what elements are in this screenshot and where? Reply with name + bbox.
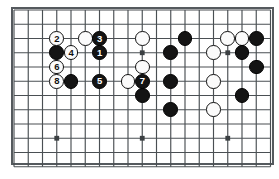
stone-black[interactable] <box>178 31 193 46</box>
stone-move-number: 2 <box>54 33 59 43</box>
stone-move-number: 5 <box>97 76 102 86</box>
stone-move-number: 3 <box>97 33 102 43</box>
stone-black-move-7[interactable]: 7 <box>135 74 150 89</box>
stone-white-move-8[interactable]: 8 <box>49 74 64 89</box>
stone-white[interactable] <box>121 74 136 89</box>
stone-white[interactable] <box>235 31 250 46</box>
stone-white-move-2[interactable]: 2 <box>49 31 64 46</box>
stone-move-number: 6 <box>54 62 59 71</box>
stone-move-number: 4 <box>68 48 73 58</box>
stone-black[interactable] <box>249 31 264 46</box>
stone-move-number: 7 <box>140 76 145 86</box>
stone-black[interactable] <box>235 88 250 103</box>
go-diagram-root: 23416857 <box>0 0 279 179</box>
stone-white[interactable] <box>135 31 150 46</box>
stone-black-move-3[interactable]: 3 <box>92 31 107 46</box>
stone-black[interactable] <box>135 88 150 103</box>
stone-black[interactable] <box>249 60 264 75</box>
stone-white[interactable] <box>135 60 150 75</box>
stone-white[interactable] <box>206 45 221 60</box>
stone-move-number: 8 <box>54 76 59 86</box>
stone-white[interactable] <box>206 102 221 117</box>
stone-black[interactable] <box>163 102 178 117</box>
stone-move-number: 1 <box>97 48 102 58</box>
stone-black[interactable] <box>163 74 178 89</box>
stone-black[interactable] <box>49 45 64 60</box>
stone-white[interactable] <box>220 31 235 46</box>
stone-black-move-1[interactable]: 1 <box>92 45 107 60</box>
stone-black[interactable] <box>64 74 79 89</box>
stone-white[interactable] <box>78 31 93 46</box>
stone-white[interactable] <box>206 74 221 89</box>
stone-black[interactable] <box>163 45 178 60</box>
stone-black-move-5[interactable]: 5 <box>92 74 107 89</box>
